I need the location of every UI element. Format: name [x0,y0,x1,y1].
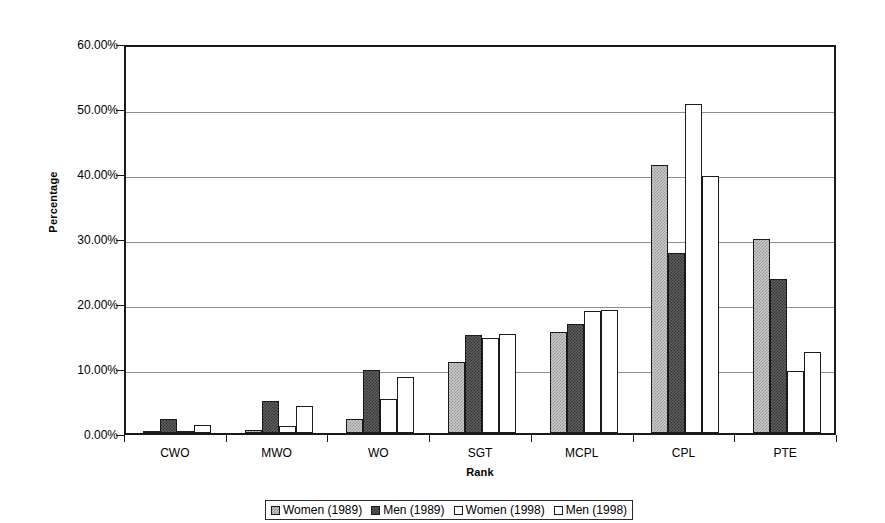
bar[interactable] [567,324,584,433]
x-category-label-pte: PTE [734,446,836,460]
legend-swatch-icon [554,506,563,515]
bar[interactable] [482,338,499,433]
legend-item[interactable]: Women (1989) [271,504,362,516]
legend-label: Women (1998) [466,504,545,516]
legend-item[interactable]: Women (1998) [454,504,545,516]
legend-swatch-icon [371,506,380,515]
legend-item[interactable]: Men (1989) [371,504,444,516]
x-category-label-wo: WO [327,446,429,460]
legend-label: Men (1989) [383,504,444,516]
bar-group [635,47,737,433]
x-tick-mark [531,435,532,442]
y-tick-mark [116,305,124,306]
y-tick-mark [116,435,124,436]
chart-legend: Women (1989)Men (1989)Women (1998)Men (1… [265,500,633,520]
x-tick-mark [226,435,227,442]
bar-group [736,47,838,433]
bar-group [329,47,431,433]
x-category-label-sgt: SGT [429,446,531,460]
x-tick-mark [734,435,735,442]
y-tick-label: 50.00% [60,104,118,116]
y-tick-mark [116,175,124,176]
bar[interactable] [262,401,279,433]
y-tick-mark [116,45,124,46]
y-tick-label: 20.00% [60,299,118,311]
x-tick-mark [124,435,125,442]
y-tick-label: 40.00% [60,169,118,181]
x-tick-mark [429,435,430,442]
bar[interactable] [160,419,177,433]
bar[interactable] [651,165,668,433]
y-tick-mark [116,110,124,111]
legend-swatch-icon [271,506,280,515]
plot-inner [126,47,834,433]
x-category-label-mcpl: MCPL [531,446,633,460]
x-category-label-mwo: MWO [226,446,328,460]
bar-chart: Percentage 0.00%10.00%20.00%30.00%40.00%… [0,0,885,523]
bar[interactable] [668,253,685,433]
bar[interactable] [380,399,397,433]
x-tick-mark [327,435,328,442]
bar[interactable] [245,430,262,433]
x-tick-mark [633,435,634,442]
y-tick-label: 0.00% [60,429,118,441]
y-tick-mark [116,370,124,371]
bar[interactable] [177,431,194,433]
plot-area [124,45,836,435]
bar[interactable] [787,371,804,433]
x-tick-mark [836,435,837,442]
bar[interactable] [465,335,482,433]
bar[interactable] [279,426,296,433]
bar[interactable] [296,406,313,433]
bar[interactable] [770,279,787,433]
bar[interactable] [499,334,516,433]
bar[interactable] [685,104,702,433]
legend-swatch-icon [454,506,463,515]
bar[interactable] [143,431,160,433]
x-category-label-cwo: CWO [124,446,226,460]
bar[interactable] [601,310,618,433]
x-category-label-cpl: CPL [633,446,735,460]
bar[interactable] [363,370,380,433]
legend-label: Men (1998) [566,504,627,516]
bar[interactable] [702,176,719,433]
y-tick-mark [116,240,124,241]
x-axis-title: Rank [124,466,836,478]
bar-group [431,47,533,433]
y-tick-label: 30.00% [60,234,118,246]
bar-group [533,47,635,433]
bar[interactable] [550,332,567,433]
bar[interactable] [346,419,363,433]
y-tick-label: 60.00% [60,39,118,51]
bar[interactable] [804,352,821,433]
bar[interactable] [448,362,465,433]
legend-label: Women (1989) [283,504,362,516]
legend-item[interactable]: Men (1998) [554,504,627,516]
bar-group [126,47,228,433]
bar-group [228,47,330,433]
bar[interactable] [397,377,414,433]
bar[interactable] [753,239,770,433]
bar[interactable] [194,425,211,433]
y-tick-label: 10.00% [60,364,118,376]
y-axis-tick-labels: 0.00%10.00%20.00%30.00%40.00%50.00%60.00… [56,0,118,523]
bar[interactable] [584,311,601,433]
